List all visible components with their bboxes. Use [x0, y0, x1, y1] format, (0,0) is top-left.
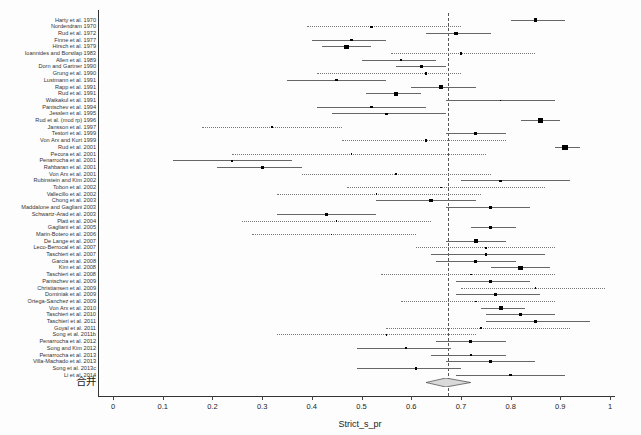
- ci-line: [431, 355, 506, 356]
- point-marker: [335, 79, 337, 81]
- study-label: Rubinstein and Kim 2002: [0, 177, 96, 183]
- x-tick-label: 0.3: [257, 402, 267, 411]
- forest-plot: 00.10.20.30.40.50.60.70.80.91 Harty et a…: [0, 0, 641, 435]
- study-label: Garcia et al. 2008: [0, 258, 96, 264]
- study-label: De Lange et al. 2007: [0, 238, 96, 244]
- x-tick-label: 0.1: [157, 402, 167, 411]
- x-tick-mark: [212, 396, 213, 400]
- ci-line: [401, 301, 555, 302]
- x-tick-label: 0.9: [555, 402, 565, 411]
- point-marker: [489, 360, 492, 363]
- study-label: Platt et al. 2004: [0, 218, 96, 224]
- x-tick-label: 0.7: [456, 402, 466, 411]
- study-label: Song et al. 2011b: [0, 331, 96, 337]
- study-label: Rud et al. (mod rp) 1996: [0, 117, 96, 123]
- point-marker: [500, 100, 502, 102]
- study-label: Taschieri et al. 2011: [0, 318, 96, 324]
- study-label: Taschieri et al. 2008: [0, 271, 96, 277]
- study-label: Grung et al. 1990: [0, 70, 96, 76]
- x-tick-mark: [610, 396, 611, 400]
- ci-line: [317, 73, 461, 74]
- ci-line: [362, 60, 437, 61]
- point-marker: [499, 180, 501, 182]
- x-tick-mark: [511, 396, 512, 400]
- point-marker: [518, 266, 522, 270]
- study-label: Chong et al. 2003: [0, 197, 96, 203]
- point-marker: [351, 153, 353, 155]
- study-label: Pantschev et al. 2009: [0, 278, 96, 284]
- point-marker: [538, 118, 542, 122]
- point-marker: [519, 313, 522, 316]
- point-marker: [400, 59, 402, 61]
- study-label: Christiansen et al. 2009: [0, 285, 96, 291]
- study-label: Von Arx et al. 2010: [0, 305, 96, 311]
- point-marker: [376, 193, 378, 195]
- ci-line: [431, 254, 545, 255]
- study-label: Pantschev et al. 1994: [0, 104, 96, 110]
- point-marker: [474, 132, 477, 135]
- ci-line: [277, 334, 476, 335]
- ci-line: [232, 154, 485, 155]
- study-label: Penarrocha et al. 2012: [0, 338, 96, 344]
- ci-line: [381, 274, 555, 275]
- ci-line: [357, 348, 451, 349]
- ci-line: [486, 321, 590, 322]
- study-label: Goyal et al. 2011: [0, 325, 96, 331]
- point-marker: [415, 367, 417, 369]
- study-label: Gagliani et al. 2005: [0, 224, 96, 230]
- study-label: Pecora et al. 2001: [0, 151, 96, 157]
- ci-line: [471, 227, 516, 228]
- point-marker: [534, 320, 537, 323]
- ci-line: [461, 288, 605, 289]
- ci-line: [456, 281, 531, 282]
- point-marker: [231, 160, 233, 162]
- point-marker: [469, 340, 472, 343]
- point-marker: [535, 287, 537, 289]
- point-marker: [425, 72, 427, 74]
- study-label: Allen et al. 1989: [0, 57, 96, 63]
- point-marker: [350, 39, 352, 41]
- x-tick-label: 1: [608, 402, 612, 411]
- ci-line: [307, 26, 461, 27]
- x-tick-mark: [163, 396, 164, 400]
- ci-line: [481, 308, 526, 309]
- point-marker: [394, 92, 398, 96]
- study-label: Maddalone and Gagliani 2003: [0, 204, 96, 210]
- point-marker: [499, 306, 503, 310]
- x-tick-mark: [362, 396, 363, 400]
- study-label: Rud et al. 1972: [0, 30, 96, 36]
- study-label: Schwartz-Arad et al. 2003: [0, 211, 96, 217]
- point-marker: [470, 354, 472, 356]
- ci-line: [426, 33, 491, 34]
- x-tick-mark: [560, 396, 561, 400]
- x-tick-label: 0.5: [356, 402, 366, 411]
- point-marker: [562, 145, 568, 151]
- ci-line: [312, 40, 387, 41]
- study-label: Song and Kim 2012: [0, 345, 96, 351]
- study-label: Penarrocha et al. 2001: [0, 157, 96, 163]
- ci-line: [411, 87, 476, 88]
- x-tick-label: 0.6: [406, 402, 416, 411]
- point-marker: [420, 65, 423, 68]
- study-label: Taschieri et al. 2007: [0, 251, 96, 257]
- study-label: Von Arx et al. 2001: [0, 171, 96, 177]
- point-marker: [370, 26, 372, 28]
- x-tick-mark: [461, 396, 462, 400]
- point-marker: [395, 173, 397, 175]
- study-label: Penarrocha et al. 2013: [0, 352, 96, 358]
- x-tick-mark: [113, 396, 114, 400]
- point-marker: [344, 45, 348, 49]
- ci-line: [277, 194, 481, 195]
- point-marker: [370, 106, 372, 108]
- study-label: Jesslen et al. 1995: [0, 110, 96, 116]
- study-label: Taschieri et al. 2010: [0, 311, 96, 317]
- point-marker: [405, 347, 407, 349]
- ci-line: [347, 187, 546, 188]
- study-label: Finne et al. 1977: [0, 37, 96, 43]
- point-marker: [494, 293, 497, 296]
- point-marker: [489, 206, 492, 209]
- study-label: Rahbaran et al. 2001: [0, 164, 96, 170]
- ci-line: [252, 234, 416, 235]
- study-label: Dominiak et al. 2009: [0, 291, 96, 297]
- study-label: Vallecillo et al. 2002: [0, 191, 96, 197]
